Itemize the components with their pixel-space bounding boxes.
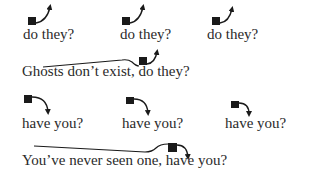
falling-tag-marker-1 (24, 95, 48, 112)
rising-arrow-icon (36, 7, 50, 23)
tag-do-they-2: do they? (120, 27, 171, 42)
tag-do-they-3: do they? (207, 27, 258, 42)
sentence-ghosts: Ghosts don’t exist, do they? (22, 64, 190, 79)
falling-arrow-icon (239, 103, 249, 114)
sentence-never-seen: You’ve never seen one, have you? (22, 153, 227, 168)
falling-tag-marker-3 (231, 101, 249, 114)
tag-have-you-2: have you? (122, 116, 183, 131)
rising-tag-marker-1 (28, 7, 50, 25)
rising-arrow-icon (220, 9, 232, 23)
pitch-line (34, 144, 168, 152)
falling-tag-marker-2 (126, 97, 148, 113)
rising-tag-marker-2 (122, 7, 143, 25)
falling-arrow-icon (32, 97, 48, 112)
stress-square-icon (168, 143, 177, 152)
stress-square-icon (126, 97, 134, 104)
stress-square-icon (28, 17, 36, 25)
tag-do-they-1: do they? (23, 27, 74, 42)
tag-have-you-1: have you? (22, 116, 83, 131)
falling-arrow-icon (134, 99, 148, 113)
stress-square-icon (122, 17, 130, 25)
rising-tag-marker-3 (212, 9, 232, 25)
tag-have-you-3: have you? (225, 116, 286, 131)
stress-square-icon (212, 17, 220, 25)
stress-square-icon (24, 95, 32, 103)
rising-arrow-icon (130, 7, 143, 23)
stress-square-icon (231, 101, 239, 108)
